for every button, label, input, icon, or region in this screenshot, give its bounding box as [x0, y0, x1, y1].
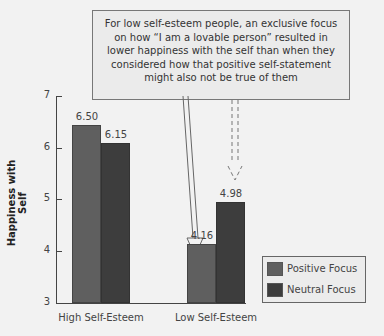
legend-label-neutral: Neutral Focus — [287, 284, 356, 295]
tick-mark — [56, 199, 62, 200]
legend-swatch-positive — [267, 262, 283, 276]
bar-low-neutral — [216, 202, 245, 303]
legend: Positive Focus Neutral Focus — [262, 256, 366, 303]
y-tick-7: 7 — [36, 89, 50, 100]
x-category-low: Low Self-Esteem — [161, 312, 271, 323]
legend-label-positive: Positive Focus — [287, 263, 357, 274]
y-axis-line — [56, 96, 57, 304]
x-axis-line — [56, 303, 246, 304]
y-tick-6: 6 — [36, 141, 50, 152]
bar-high-positive — [72, 125, 101, 303]
value-label: 6.15 — [96, 129, 136, 140]
bar-high-neutral — [101, 143, 130, 303]
y-tick-3: 3 — [36, 296, 50, 307]
value-label: 4.98 — [211, 188, 251, 199]
value-label: 6.50 — [67, 111, 107, 122]
y-tick-5: 5 — [36, 192, 50, 203]
y-tick-4: 4 — [36, 244, 50, 255]
y-axis-label: Happiness with Self — [6, 148, 28, 258]
tick-mark — [56, 251, 62, 252]
tick-mark — [56, 96, 62, 97]
bar-low-positive — [187, 244, 216, 303]
tick-mark — [56, 148, 62, 149]
value-label: 4.16 — [182, 230, 222, 241]
x-category-high: High Self-Esteem — [46, 312, 156, 323]
legend-swatch-neutral — [267, 283, 283, 297]
